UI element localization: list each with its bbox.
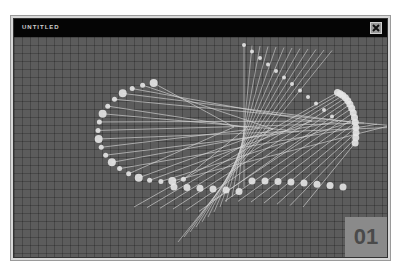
page-number: 01 — [354, 224, 378, 250]
animation-canvas[interactable]: 01 — [14, 37, 387, 257]
string-art-graphic — [14, 37, 387, 257]
page-number-badge: 01 — [345, 217, 387, 257]
window-frame: UNTITLED 01 — [13, 18, 388, 258]
close-button[interactable] — [370, 22, 382, 34]
window-title: UNTITLED — [22, 24, 60, 30]
app-window: UNTITLED 01 — [10, 15, 391, 261]
title-bar[interactable]: UNTITLED — [14, 19, 387, 37]
close-x-icon — [371, 23, 381, 33]
